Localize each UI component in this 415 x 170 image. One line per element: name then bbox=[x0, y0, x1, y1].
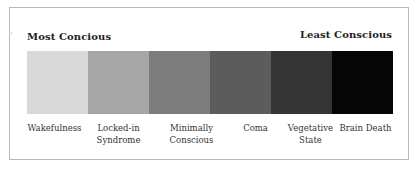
bar-wakefulness bbox=[27, 51, 88, 114]
most-conscious-label: Most Concious bbox=[27, 31, 111, 42]
caption-locked-in-syndrome: Locked-in Syndrome bbox=[82, 122, 155, 146]
bar-coma bbox=[210, 51, 271, 114]
caption-coma: Coma bbox=[228, 122, 283, 146]
diagram-frame: Most Concious Least Conscious Wakefulnes… bbox=[9, 7, 409, 160]
consciousness-gradient-bar bbox=[27, 51, 393, 114]
caption-brain-death: Brain Death bbox=[338, 122, 393, 146]
bar-locked-in-syndrome bbox=[88, 51, 149, 114]
bar-brain-death bbox=[332, 51, 393, 114]
bar-minimally-conscious bbox=[149, 51, 210, 114]
bar-vegetative-state bbox=[271, 51, 332, 114]
caption-minimally-conscious: Minimally Conscious bbox=[155, 122, 228, 146]
caption-wakefulness: Wakefulness bbox=[27, 122, 82, 146]
state-captions: Wakefulness Locked-in Syndrome Minimally… bbox=[27, 122, 393, 146]
margin-mark bbox=[11, 32, 12, 34]
caption-vegetative-state: Vegetative State bbox=[283, 122, 338, 146]
least-conscious-label: Least Conscious bbox=[300, 29, 392, 40]
